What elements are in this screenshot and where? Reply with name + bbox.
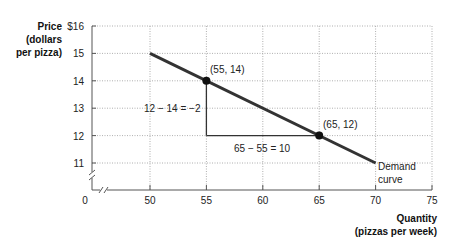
x-tick-70: 70 [370,195,382,206]
rise-annotation: 12 − 14 = −2 [144,103,201,114]
y-tick-11: 11 [74,158,85,169]
y-tick-14: 14 [73,76,85,87]
y-axis-title-line-1: Price [38,21,63,32]
point-65-12 [315,132,323,140]
x-axis-title: Quantity (pizzas per week) [355,213,438,237]
x-tick-0: 0 [82,195,88,206]
x-axis [92,185,432,193]
y-tick-13: 13 [73,103,85,114]
run-annotation: 65 − 55 = 10 [234,143,291,154]
x-tick-55: 55 [201,195,213,206]
y-axis-title-line-3: per pizza) [16,47,62,58]
y-tick-16: $16 [67,21,84,32]
point-label-65-12: (65, 12) [323,119,357,130]
y-tick-labels: $16 15 14 13 12 11 [67,21,84,169]
x-tick-60: 60 [257,195,269,206]
x-tick-75: 75 [426,195,438,206]
x-axis-title-line-1: Quantity [396,213,437,224]
x-tick-labels: 0 50 55 60 65 70 75 [82,195,438,206]
demand-chart: $16 15 14 13 12 11 0 50 55 60 65 70 75 P… [0,0,457,250]
point-55-14 [202,77,210,85]
y-axis [89,26,96,190]
x-tick-65: 65 [314,195,326,206]
y-axis-title: Price (dollars per pizza) [16,21,63,58]
point-label-55-14: (55, 14) [210,64,244,75]
x-tick-50: 50 [144,195,156,206]
x-axis-title-line-2: (pizzas per week) [355,226,437,237]
y-axis-title-line-2: (dollars [26,34,63,45]
y-tick-12: 12 [73,131,85,142]
y-tick-15: 15 [73,48,85,59]
demand-curve-label-line-1: Demand [378,161,416,172]
demand-curve-label-line-2: curve [378,174,403,185]
